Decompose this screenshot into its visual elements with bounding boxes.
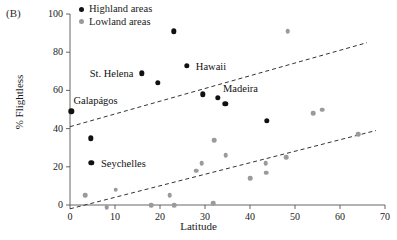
y-tick-label-60: 60: [39, 84, 63, 95]
point-label-seychelles: Seychelles: [101, 157, 146, 168]
data-point-lowland-8: [211, 201, 216, 206]
data-point-lowland-10: [223, 153, 228, 158]
data-point-lowland-16: [311, 111, 316, 116]
y-tick-label-20: 20: [39, 161, 63, 172]
y-axis-title: % Flightless: [13, 52, 25, 152]
y-tick-label-40: 40: [39, 123, 63, 134]
data-point-lowland-12: [263, 161, 268, 166]
x-axis-title: Latitude: [0, 220, 397, 232]
lowland-trend: [70, 131, 376, 209]
point-label-galap-gos: Galapágos: [73, 94, 117, 105]
data-point-lowland-0: [83, 193, 88, 198]
data-point-lowland-13: [264, 170, 269, 175]
data-point-lowland-15: [286, 29, 291, 34]
data-point-lowland-5: [172, 203, 177, 208]
data-point-lowland-2: [114, 187, 119, 192]
point-label-st-helena: St. Helena: [90, 68, 134, 79]
point-label-hawaii: Hawaii: [196, 60, 226, 71]
data-point-lowland-3: [149, 203, 154, 208]
data-point-lowland-14: [284, 155, 289, 160]
y-tick-label-0: 0: [39, 199, 63, 210]
highland-trend: [70, 43, 367, 127]
data-point-lowland-6: [194, 168, 199, 173]
point-label-madeira: Madeira: [223, 83, 258, 94]
chart-panel: (B) Highland areas Lowland areas 0102030…: [0, 0, 397, 240]
data-point-lowland-1: [105, 205, 110, 210]
data-point-lowland-11: [248, 176, 253, 181]
y-tick-label-80: 80: [39, 46, 63, 57]
y-tick-label-100: 100: [39, 8, 63, 19]
data-point-lowland-7: [200, 161, 205, 166]
data-point-lowland-18: [356, 132, 361, 137]
data-point-lowland-9: [212, 138, 217, 143]
data-point-lowland-4: [168, 193, 173, 198]
data-point-lowland-17: [320, 107, 325, 112]
